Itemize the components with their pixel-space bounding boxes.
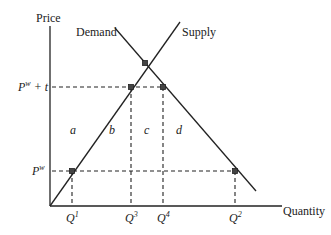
demand-label: Demand	[76, 25, 117, 39]
q3-label: Q3	[125, 210, 138, 225]
q2-label: Q2	[229, 210, 242, 225]
supply-tariff-point	[129, 85, 134, 90]
x-axis-label: Quantity	[283, 204, 325, 218]
q4-label: Q4	[157, 210, 170, 225]
supply-demand-diagram: Price Quantity Demand Supply Pw + t Pw Q…	[0, 0, 331, 235]
region-d-label: d	[176, 123, 183, 137]
supply-world-point	[70, 169, 75, 174]
supply-curve	[50, 22, 180, 206]
supply-label: Supply	[182, 25, 216, 39]
world-price-label: Pw	[31, 163, 45, 178]
equilibrium-point	[143, 61, 148, 66]
region-c-label: c	[144, 123, 150, 137]
diagram-canvas: Price Quantity Demand Supply Pw + t Pw Q…	[0, 0, 331, 235]
demand-tariff-point	[161, 85, 166, 90]
tariff-price-label: Pw + t	[17, 79, 49, 94]
region-b-label: b	[109, 123, 115, 137]
region-a-label: a	[70, 123, 76, 137]
y-axis-label: Price	[36, 11, 61, 25]
q1-label: Q1	[66, 210, 79, 225]
demand-curve	[115, 28, 256, 191]
demand-world-point	[233, 169, 238, 174]
